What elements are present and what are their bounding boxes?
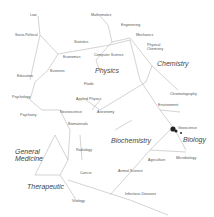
node-biomaterials: Biomaterials xyxy=(68,123,88,127)
node-infectious-diseases: Infectious Diseases xyxy=(125,193,156,197)
node-animal-science: Animal Science xyxy=(118,170,143,174)
cluster-biochemistry: Biochemistry xyxy=(111,137,151,144)
node-socio-political: Socio-Political xyxy=(15,34,38,38)
node-statistics: Statistics xyxy=(74,41,88,45)
node-computer-science: Computer Science xyxy=(94,54,124,58)
node-chromatography: Chromatography xyxy=(170,93,197,97)
node-economics: Economics xyxy=(63,56,81,60)
cluster-biology: Biology xyxy=(183,136,206,143)
node-virology: Virology xyxy=(72,200,85,204)
node-physical-chemistry: PhysicalChemistry xyxy=(147,44,163,51)
node-psychology: Psychology xyxy=(12,96,30,100)
node-agriculture: Agriculture xyxy=(148,159,165,163)
node-mathematics: Mathematics xyxy=(91,14,111,18)
node-radiology: Radiology xyxy=(76,149,92,153)
node-microbiology: Microbiology xyxy=(176,157,196,161)
node-environment: Environment xyxy=(158,104,178,108)
node-neuroscience: Neuroscience xyxy=(60,111,82,115)
node-cancer: Cancer xyxy=(80,172,92,176)
node-astronomy: Astronomy xyxy=(97,111,114,115)
node-engineering: Engineering xyxy=(121,24,140,28)
cluster-chemistry: Chemistry xyxy=(157,60,189,67)
node-geoscience: Geoscience xyxy=(178,127,197,131)
cluster-general-medicine: GeneralMedicine xyxy=(15,148,43,163)
node-psychiatry: Psychiatry xyxy=(20,114,37,118)
node-law: Law xyxy=(30,14,37,18)
cluster-physics: Physics xyxy=(95,67,119,74)
cluster-therapeutic: Therapeutic xyxy=(27,183,64,190)
node-business: Business xyxy=(50,70,65,74)
node-applied-physics: Applied Physics xyxy=(76,98,101,102)
node-mechanics: Mechanics xyxy=(136,34,153,38)
node-education: Education xyxy=(17,75,33,79)
node-fluids: Fluids xyxy=(84,83,94,87)
science-map: Physics Chemistry Biology Biochemistry G… xyxy=(0,0,214,217)
